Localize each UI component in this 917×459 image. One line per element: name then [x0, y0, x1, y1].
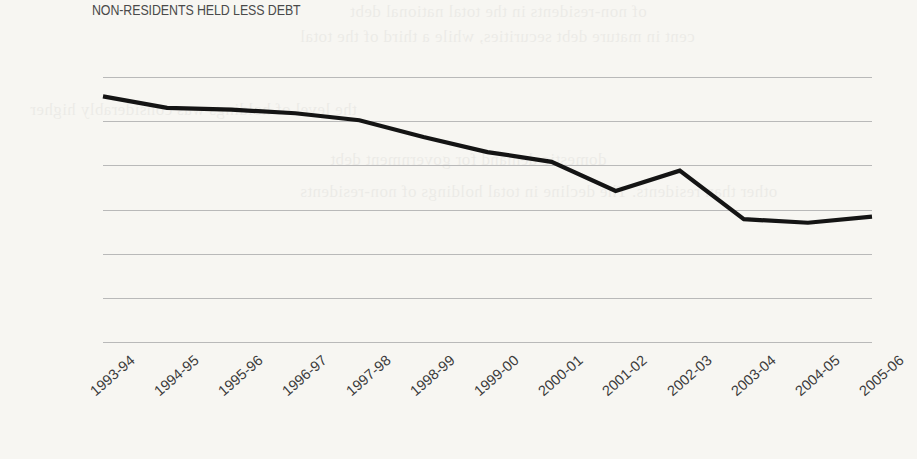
x-axis-tick-label: 1999-00 [471, 352, 522, 399]
x-axis-tick-label: 2004-05 [792, 352, 843, 399]
x-axis-tick-label: 2000-01 [535, 352, 586, 399]
x-axis-tick-label: 1997-98 [343, 352, 394, 399]
x-axis-tick-label: 1994-95 [151, 352, 202, 399]
plot-area: 30.025.020.015.010.05.00.0 [103, 77, 872, 342]
line-chart: NON-RESIDENTS HELD LESS DEBT 30.025.020.… [0, 0, 917, 459]
x-axis-tick-label: 2003-04 [728, 352, 779, 399]
chart-title: NON-RESIDENTS HELD LESS DEBT [92, 1, 301, 19]
x-axis-tick-label: 2002-03 [664, 352, 715, 399]
series-line [103, 77, 872, 342]
gridline [103, 342, 872, 343]
data-line [103, 96, 872, 222]
x-axis-tick-label: 1993-94 [87, 352, 138, 399]
x-axis-tick-label: 2005-06 [856, 352, 907, 399]
x-axis-tick-label: 1995-96 [215, 352, 266, 399]
x-axis-tick-label: 1998-99 [407, 352, 458, 399]
x-axis-tick-label: 2001-02 [599, 352, 650, 399]
x-axis-tick-label: 1996-97 [279, 352, 330, 399]
